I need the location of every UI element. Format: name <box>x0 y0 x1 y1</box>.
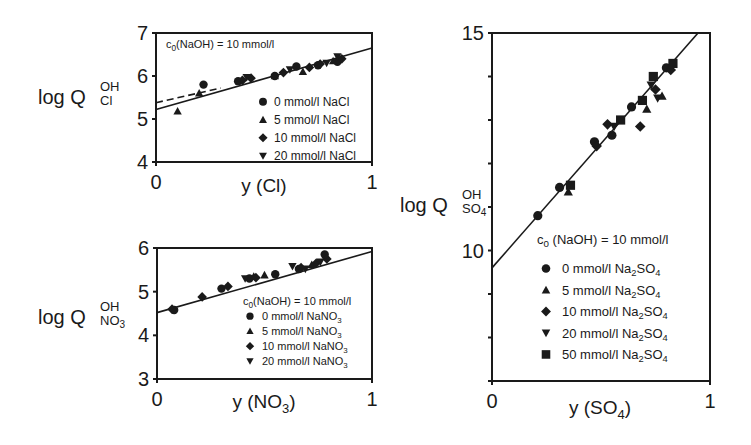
ylabel-no3-sub: NO3 <box>100 314 125 328</box>
triangle-up-marker <box>246 328 253 335</box>
y-tick-label: 4 <box>138 324 149 346</box>
x-axis-label: y (Cl) <box>241 175 286 196</box>
triangle-up-marker <box>259 116 267 123</box>
y-tick-label: 6 <box>138 237 149 259</box>
ylabel-so4-sup: OH <box>462 188 482 201</box>
y-tick-label: 10 <box>462 240 484 262</box>
triangle-down-marker <box>259 153 267 160</box>
circle-marker <box>533 211 542 220</box>
annotation-c0-naoh: c0(NaOH) = 10 mmol/l <box>166 38 274 53</box>
triangle-down-marker <box>542 330 551 338</box>
diamond-marker <box>246 342 254 350</box>
square-marker <box>649 72 658 81</box>
legend: 0 mmol/l Na2SO45 mmol/l Na2SO410 mmol/l … <box>541 261 668 364</box>
y-tick-label: 4 <box>137 151 148 173</box>
legend-entry: 10 mmol/l Na2SO4 <box>562 304 668 321</box>
square-marker <box>616 115 625 124</box>
series-square <box>566 59 678 190</box>
y-tick-label: 5 <box>137 108 148 130</box>
y-tick-label: 15 <box>462 22 484 44</box>
triangle-up-marker <box>173 107 181 115</box>
square-marker <box>638 96 647 105</box>
legend-entry: 5 mmol/l NaNO3 <box>262 325 342 340</box>
circle-marker <box>607 131 616 140</box>
x-axis-label: y (SO4) <box>569 397 631 422</box>
y-tick-label: 5 <box>138 281 149 303</box>
circle-marker <box>555 183 564 192</box>
triangle-down-marker <box>246 358 253 365</box>
ylabel-cl: log Q OH Cl <box>38 86 86 109</box>
legend-entry: 0 mmol/l NaCl <box>274 95 349 109</box>
figure-canvas: 456701y (Cl)c0(NaOH) = 10 mmol/l0 mmol/l… <box>0 0 751 445</box>
y-tick-label: 6 <box>137 65 148 87</box>
plot-cl: 456701y (Cl)c0(NaOH) = 10 mmol/l0 mmol/l… <box>137 22 378 196</box>
legend-entry: 20 mmol/l NaCl <box>274 149 356 163</box>
diamond-marker <box>541 307 551 317</box>
y-tick-label: 3 <box>138 368 149 390</box>
square-marker <box>542 350 551 359</box>
x-axis-label: y (NO3) <box>232 391 295 416</box>
ylabel-so4: log Q OH SO4 <box>400 194 448 217</box>
series-triangle-up <box>564 91 667 195</box>
triangle-up-marker <box>542 286 551 294</box>
y-tick-label: 7 <box>137 22 148 44</box>
square-marker <box>668 59 677 68</box>
series-triangle-down <box>243 53 342 81</box>
x-tick-label: 1 <box>366 171 377 193</box>
ylabel-cl-sup: OH <box>100 80 120 93</box>
x-tick-label: 1 <box>704 390 715 412</box>
x-tick-label: 0 <box>150 171 161 193</box>
ylabel-so4-main: log Q <box>400 194 448 216</box>
annotation-c0-naoh: c0 (NaOH) = 10 mmol/l <box>537 232 669 249</box>
legend-entry: 10 mmol/l NaCl <box>274 131 356 145</box>
plot-no3: 345601y (NO3)c0(NaOH) = 10 mmol/l0 mmol/… <box>138 237 378 416</box>
legend-entry: 0 mmol/l NaNO3 <box>262 310 342 325</box>
diamond-marker <box>279 68 289 78</box>
legend-entry: 20 mmol/l Na2SO4 <box>562 326 668 343</box>
ylabel-cl-main: log Q <box>38 86 86 108</box>
circle-marker <box>199 80 207 88</box>
diamond-marker <box>305 63 315 73</box>
square-marker <box>566 181 575 190</box>
x-tick-label: 0 <box>486 390 497 412</box>
x-tick-label: 0 <box>151 388 162 410</box>
legend-entry: 5 mmol/l Na2SO4 <box>562 283 661 300</box>
circle-marker <box>542 264 551 273</box>
triangle-up-marker <box>642 105 651 113</box>
ylabel-cl-sub: Cl <box>100 94 112 107</box>
ylabel-no3: log Q OH NO3 <box>38 306 86 329</box>
annotation-c0-naoh: c0(NaOH) = 10 mmol/l <box>243 295 351 310</box>
ylabel-so4-sub: SO4 <box>462 202 486 216</box>
ylabel-no3-sup: OH <box>100 300 120 313</box>
circle-marker <box>271 270 279 278</box>
circle-marker <box>259 98 267 106</box>
legend-entry: 50 mmol/l Na2SO4 <box>562 347 668 364</box>
diamond-marker <box>635 121 646 132</box>
legend-entry: 5 mmol/l NaCl <box>274 113 349 127</box>
legend: 0 mmol/l NaNO35 mmol/l NaNO310 mmol/l Na… <box>246 310 348 370</box>
x-tick-label: 1 <box>366 388 377 410</box>
legend: 0 mmol/l NaCl5 mmol/l NaCl10 mmol/l NaCl… <box>258 95 356 163</box>
legend-entry: 0 mmol/l Na2SO4 <box>562 261 661 278</box>
legend-entry: 10 mmol/l NaNO3 <box>262 340 348 355</box>
circle-marker <box>246 313 253 320</box>
plot-so4: 101501y (SO4)c0 (NaOH) = 10 mmol/l0 mmol… <box>462 22 716 422</box>
ylabel-no3-main: log Q <box>38 306 86 328</box>
triangle-up-marker <box>260 271 268 279</box>
legend-entry: 20 mmol/l NaNO3 <box>262 355 348 370</box>
diamond-marker <box>258 133 267 142</box>
circle-marker <box>627 102 636 111</box>
